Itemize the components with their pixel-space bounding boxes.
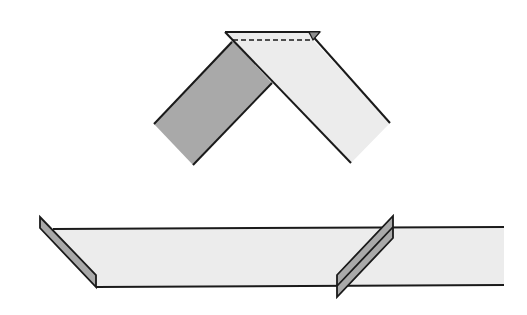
long-strip-body (53, 227, 504, 287)
mitered-corner-figure (154, 32, 390, 165)
long-strip-figure (40, 216, 504, 297)
strip-folding-diagram (0, 0, 527, 315)
diagram-canvas (0, 0, 527, 315)
